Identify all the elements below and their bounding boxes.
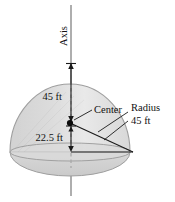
dome-diagram-figure: Axis 45 ft Center 22.5 ft Radius 45 ft [0,0,175,202]
radius-label-line1: Radius [131,102,160,113]
height-label: 45 ft [42,91,62,102]
depth-label: 22.5 ft [36,132,63,143]
center-point-dot [67,120,73,126]
center-label: Center [94,104,122,115]
radius-label-line2: 45 ft [131,115,151,126]
dome-diagram-svg: Axis 45 ft Center 22.5 ft Radius 45 ft [0,0,175,202]
axis-label: Axis [58,26,69,46]
